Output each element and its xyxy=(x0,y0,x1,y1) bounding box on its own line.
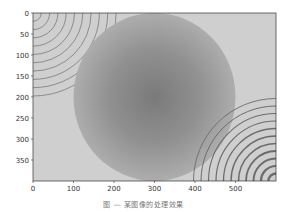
x-tick-labels: 0 100 200 300 400 500 xyxy=(31,185,242,193)
x-tick-label: 300 xyxy=(148,185,161,193)
figure-image: 0 50 100 150 200 250 300 350 0 100 200 3… xyxy=(0,0,287,212)
y-tick-label: 150 xyxy=(16,73,29,81)
y-tick-label: 200 xyxy=(16,94,29,102)
y-tick-label: 0 xyxy=(25,10,29,18)
figure-caption: 图 — 某图像的处理效果 xyxy=(0,199,287,209)
y-tick-label: 350 xyxy=(16,157,29,165)
x-tick-label: 500 xyxy=(229,185,242,193)
y-tick-label: 300 xyxy=(16,136,29,144)
plot-area xyxy=(0,0,287,212)
x-tick-label: 400 xyxy=(188,185,201,193)
y-tick-label: 250 xyxy=(16,115,29,123)
x-tick-label: 0 xyxy=(31,185,35,193)
y-tick-label: 50 xyxy=(20,31,29,39)
y-tick-label: 100 xyxy=(16,52,29,60)
x-tick-label: 100 xyxy=(67,185,80,193)
y-tick-labels: 0 50 100 150 200 250 300 350 xyxy=(16,10,29,165)
x-tick-label: 200 xyxy=(107,185,120,193)
